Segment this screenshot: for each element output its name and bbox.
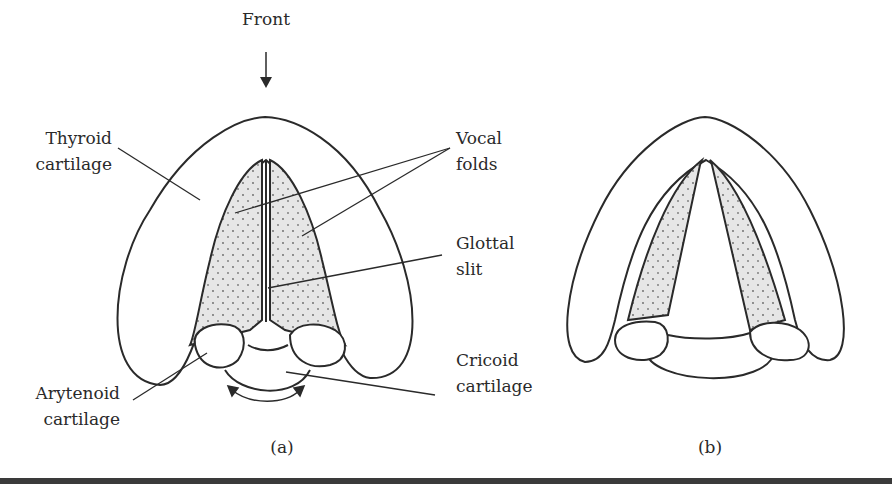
panel-a bbox=[118, 117, 413, 391]
arytenoid-left-a bbox=[195, 324, 244, 367]
arytenoid-right-a bbox=[290, 325, 345, 367]
caption-b: (b) bbox=[690, 434, 730, 460]
caption-a: (a) bbox=[262, 434, 302, 460]
arytenoid-left-b bbox=[615, 322, 668, 360]
thyroid-cartilage-b bbox=[567, 117, 844, 362]
bottom-rule bbox=[0, 478, 892, 484]
cricoid-cartilage-b bbox=[645, 350, 775, 378]
label-thyroid-cartilage: Thyroid cartilage bbox=[20, 125, 112, 177]
label-vocal-folds: Vocal folds bbox=[456, 125, 536, 177]
label-glottal-slit: Glottal slit bbox=[456, 230, 536, 282]
front-arrow-icon bbox=[260, 52, 272, 88]
label-front: Front bbox=[236, 6, 296, 32]
panel-b bbox=[567, 117, 844, 378]
larynx-diagram bbox=[0, 0, 892, 493]
label-cricoid-cartilage: Cricoid cartilage bbox=[456, 347, 546, 399]
label-arytenoid-cartilage: Arytenoid cartilage bbox=[10, 380, 120, 432]
